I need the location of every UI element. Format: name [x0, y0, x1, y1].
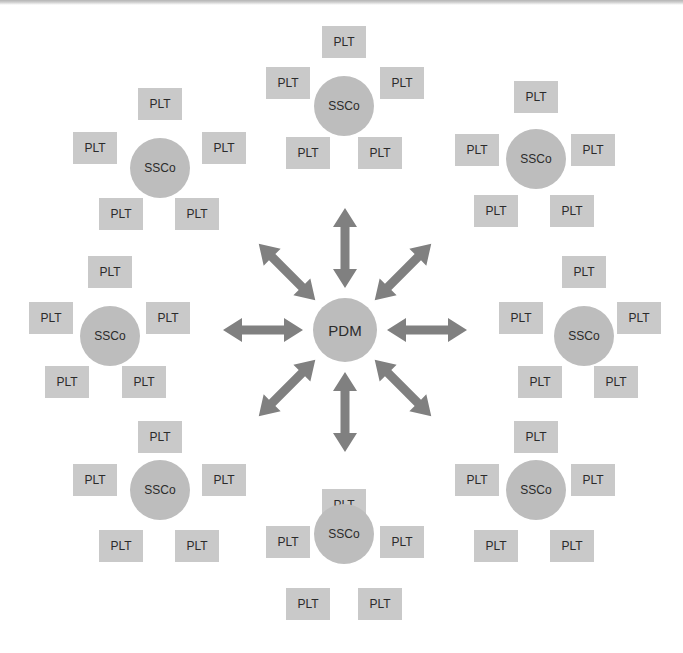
plt-node[interactable]: PLT	[550, 195, 594, 227]
ssco-node[interactable]: SSCo	[130, 460, 190, 520]
ssco-node[interactable]: SSCo	[130, 138, 190, 198]
plt-node[interactable]: PLT	[455, 134, 499, 166]
plt-node[interactable]: PLT	[286, 588, 330, 620]
plt-node[interactable]: PLT	[455, 464, 499, 496]
plt-node[interactable]: PLT	[88, 256, 132, 288]
hub-node-pdm[interactable]: PDM	[313, 298, 377, 362]
plt-node[interactable]: PLT	[122, 366, 166, 398]
arrow-hub-southwest	[259, 360, 316, 417]
plt-node[interactable]: PLT	[594, 366, 638, 398]
plt-node[interactable]: PLT	[514, 81, 558, 113]
plt-node[interactable]: PLT	[514, 421, 558, 453]
arrow-hub-west	[223, 318, 303, 342]
ssco-node[interactable]: SSCo	[554, 306, 614, 366]
ssco-node[interactable]: SSCo	[506, 129, 566, 189]
plt-node[interactable]: PLT	[266, 67, 310, 99]
plt-node[interactable]: PLT	[266, 526, 310, 558]
plt-node[interactable]: PLT	[550, 530, 594, 562]
plt-node[interactable]: PLT	[322, 26, 366, 58]
arrow-hub-north	[333, 208, 357, 288]
plt-node[interactable]: PLT	[380, 526, 424, 558]
ssco-node[interactable]: SSCo	[80, 306, 140, 366]
plt-node[interactable]: PLT	[202, 464, 246, 496]
ssco-node[interactable]: SSCo	[314, 504, 374, 564]
plt-node[interactable]: PLT	[286, 137, 330, 169]
network-diagram-canvas: PDMPLTPLTPLTPLTPLTSSCoPLTPLTPLTPLTPLTSSC…	[0, 0, 683, 653]
plt-node[interactable]: PLT	[571, 464, 615, 496]
arrow-hub-northwest	[259, 244, 316, 301]
plt-node[interactable]: PLT	[474, 530, 518, 562]
ssco-node[interactable]: SSCo	[314, 76, 374, 136]
arrow-hub-northeast	[375, 244, 432, 301]
plt-node[interactable]: PLT	[175, 530, 219, 562]
plt-node[interactable]: PLT	[474, 195, 518, 227]
arrow-hub-east	[387, 318, 467, 342]
arrow-hub-southeast	[375, 360, 432, 417]
plt-node[interactable]: PLT	[202, 132, 246, 164]
plt-node[interactable]: PLT	[358, 137, 402, 169]
plt-node[interactable]: PLT	[175, 198, 219, 230]
plt-node[interactable]: PLT	[73, 132, 117, 164]
plt-node[interactable]: PLT	[146, 302, 190, 334]
plt-node[interactable]: PLT	[358, 588, 402, 620]
ssco-node[interactable]: SSCo	[506, 460, 566, 520]
plt-node[interactable]: PLT	[99, 198, 143, 230]
plt-node[interactable]: PLT	[29, 302, 73, 334]
plt-node[interactable]: PLT	[380, 67, 424, 99]
plt-node[interactable]: PLT	[617, 302, 661, 334]
plt-node[interactable]: PLT	[518, 366, 562, 398]
plt-node[interactable]: PLT	[99, 530, 143, 562]
plt-node[interactable]: PLT	[73, 464, 117, 496]
plt-node[interactable]: PLT	[499, 302, 543, 334]
arrow-hub-south	[333, 372, 357, 452]
plt-node[interactable]: PLT	[562, 256, 606, 288]
plt-node[interactable]: PLT	[45, 366, 89, 398]
plt-node[interactable]: PLT	[571, 134, 615, 166]
plt-node[interactable]: PLT	[138, 421, 182, 453]
plt-node[interactable]: PLT	[138, 88, 182, 120]
